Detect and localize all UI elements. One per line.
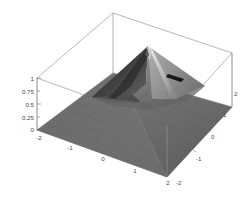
z-tick-0.75: 0.75: [22, 88, 35, 95]
surface-mesh: [37, 46, 232, 177]
y-tick-1: 1: [223, 111, 227, 118]
z-tick-1: 1: [31, 75, 35, 82]
z-tick-0.5: 0.5: [25, 101, 34, 108]
x-tick-1: 1: [133, 167, 137, 174]
surface-plot-figure: 1 0.75 0.5 0.25 0 -2 -1 0 1 2 -2 -1 0 1 …: [0, 0, 250, 203]
x-tick--1: -1: [67, 144, 73, 151]
z-axis-tick-labels: 1 0.75 0.5 0.25 0: [22, 75, 35, 133]
z-tick-0.25: 0.25: [22, 114, 35, 121]
z-tick-0: 0: [31, 126, 35, 133]
y-tick--2: -2: [176, 179, 182, 186]
plot-canvas: 1 0.75 0.5 0.25 0 -2 -1 0 1 2 -2 -1 0 1 …: [0, 0, 250, 203]
x-tick-2: 2: [166, 179, 170, 186]
y-tick--1: -1: [196, 155, 202, 162]
y-tick-2: 2: [234, 90, 238, 97]
x-tick--2: -2: [36, 134, 42, 141]
y-tick-0: 0: [211, 133, 215, 140]
x-tick-0: 0: [101, 155, 105, 162]
